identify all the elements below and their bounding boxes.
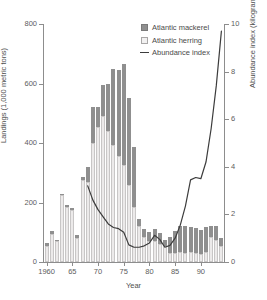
x-axis-title: Year [0, 281, 267, 290]
chart-figure: Landings (1,000 metric tons) Abundance i… [0, 0, 267, 300]
y-tick-label-right: 6 [231, 115, 235, 123]
x-tick [72, 262, 73, 266]
y-tick-right [225, 167, 229, 168]
y-axis-left-title: Landings (1,000 metric tons) [0, 48, 8, 143]
y-tick-label-right: 4 [231, 163, 235, 171]
y-tick-right [225, 262, 229, 263]
y-tick-right [225, 24, 229, 25]
x-tick [201, 262, 202, 266]
y-tick-label-left: 400 [24, 139, 37, 147]
x-tick [149, 262, 150, 266]
y-tick-label-left: 200 [24, 199, 37, 207]
x-tick-label: 85 [171, 268, 179, 276]
x-tick [98, 262, 99, 266]
y-tick-label-right: 2 [231, 211, 235, 219]
x-axis-line [43, 262, 225, 263]
abundance-index-line [43, 24, 225, 262]
x-tick [47, 262, 48, 266]
y-tick-right [225, 119, 229, 120]
plot-area: 0200400600800 0246810 1960657075808590 [43, 24, 225, 262]
y-tick-right [225, 214, 229, 215]
y-tick-label-right: 0 [231, 258, 235, 266]
x-tick-label: 80 [145, 268, 153, 276]
y-tick-label-left: 800 [24, 20, 37, 28]
x-tick-label: 90 [197, 268, 205, 276]
y-tick-label-right: 8 [231, 68, 235, 76]
x-tick-label: 75 [120, 268, 128, 276]
y-tick-label-left: 0 [33, 258, 37, 266]
y-tick-label-left: 600 [24, 80, 37, 88]
y-tick-right [225, 72, 229, 73]
y-axis-right-title: Abundance index (kilograms per tow) [248, 0, 257, 88]
x-tick-label: 1960 [38, 268, 55, 276]
y-tick-label-right: 10 [231, 20, 239, 28]
y-tick-left [39, 262, 43, 263]
x-tick [124, 262, 125, 266]
x-tick-label: 65 [68, 268, 76, 276]
x-tick-label: 70 [94, 268, 102, 276]
x-tick [175, 262, 176, 266]
